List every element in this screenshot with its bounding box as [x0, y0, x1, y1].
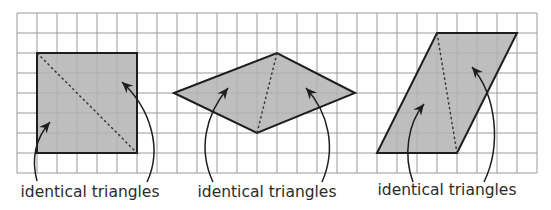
panel-parallelogram: identical triangles	[377, 33, 517, 199]
shape-panels: identical triangles identical triangles …	[21, 33, 517, 201]
panel-square: identical triangles	[21, 53, 160, 201]
label-identical-triangles-rhombus: identical triangles	[198, 183, 337, 201]
panel-rhombus: identical triangles	[174, 53, 355, 201]
identical-triangles-diagram: identical triangles identical triangles …	[0, 0, 551, 210]
rhombus-shape	[174, 53, 355, 133]
label-identical-triangles-parallelogram: identical triangles	[378, 181, 517, 199]
label-identical-triangles-square: identical triangles	[21, 183, 160, 201]
